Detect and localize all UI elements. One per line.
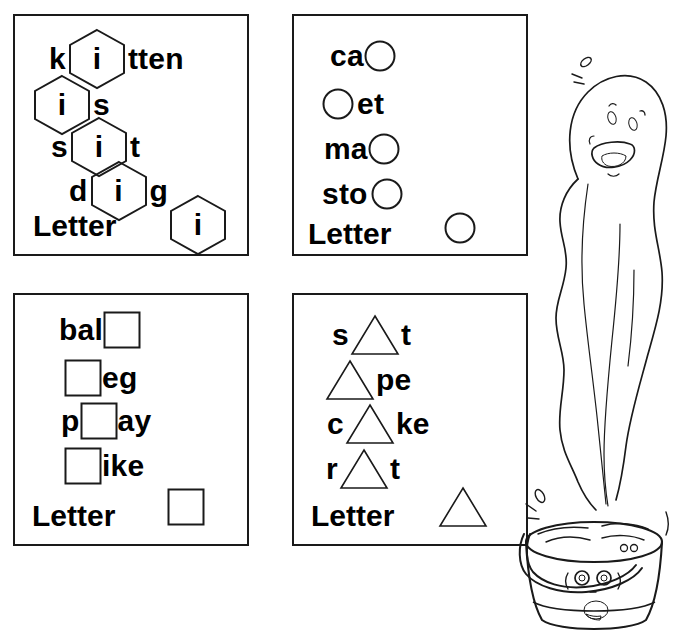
panel-circle-rows: ca et bbox=[294, 16, 526, 254]
triangle-icon[interactable] bbox=[324, 358, 376, 402]
bucket-icon bbox=[520, 522, 662, 629]
square-answer-letter bbox=[80, 402, 118, 440]
word-suffix: t bbox=[390, 454, 400, 484]
square-answer-letter bbox=[64, 359, 102, 397]
square-icon[interactable] bbox=[64, 359, 102, 397]
letter-label: Letter bbox=[311, 501, 394, 531]
ghost-mouth-icon bbox=[592, 142, 635, 168]
word-prefix: s bbox=[332, 320, 349, 350]
word-suffix: t bbox=[401, 320, 411, 350]
word-suffix: t bbox=[130, 132, 140, 162]
triangle-answer-letter bbox=[344, 402, 396, 446]
circle-answer-letter bbox=[322, 88, 354, 120]
word-prefix: s bbox=[51, 132, 68, 162]
letter-label: Letter bbox=[33, 211, 116, 241]
square-answer-letter bbox=[64, 447, 102, 485]
triangle-icon[interactable] bbox=[344, 402, 396, 446]
letter-label: Letter bbox=[32, 501, 115, 531]
triangle-answer-letter bbox=[338, 447, 390, 491]
word-prefix: c bbox=[327, 409, 344, 439]
triangle-answer-letter bbox=[437, 485, 489, 529]
triangle-icon[interactable] bbox=[349, 313, 401, 357]
triangle-answer-icon[interactable] bbox=[437, 485, 489, 529]
square-icon[interactable] bbox=[80, 402, 118, 440]
panel-hexagon: k i tten i s bbox=[13, 14, 249, 256]
circle-icon[interactable] bbox=[364, 40, 396, 72]
word-suffix: g bbox=[150, 176, 169, 206]
panel-square-rows: bal eg bbox=[15, 295, 247, 544]
bucket-left-eye-icon bbox=[575, 571, 589, 585]
word-row: eg bbox=[64, 359, 137, 397]
word-suffix: pe bbox=[376, 365, 411, 395]
word-prefix: k bbox=[49, 44, 66, 74]
word-row: pe bbox=[324, 358, 411, 402]
triangle-icon[interactable] bbox=[338, 447, 390, 491]
ghost-left-eye-icon bbox=[606, 111, 617, 126]
square-answer-letter bbox=[167, 488, 205, 526]
circle-answer-letter bbox=[368, 133, 400, 165]
square-answer-icon[interactable] bbox=[167, 488, 205, 526]
ghost-motion-tick-icon bbox=[579, 56, 593, 69]
word-suffix: ay bbox=[118, 406, 152, 436]
triangle-answer-letter bbox=[324, 358, 376, 402]
word-row: r t bbox=[326, 447, 400, 491]
word-row: s t bbox=[332, 313, 411, 357]
ghost-right-eye-icon bbox=[627, 117, 638, 132]
panel-triangle: s t pe bbox=[292, 293, 528, 546]
circle-icon[interactable] bbox=[371, 178, 403, 210]
word-suffix: et bbox=[357, 89, 384, 119]
hexagon-answer-icon[interactable]: i bbox=[167, 194, 229, 256]
word-row: ma bbox=[324, 133, 400, 165]
word-row: sto bbox=[322, 178, 403, 210]
steam-ghost-icon bbox=[556, 56, 666, 510]
word-prefix: r bbox=[326, 454, 338, 484]
word-row: ca bbox=[330, 40, 396, 72]
word-suffix: ike bbox=[102, 451, 144, 481]
word-row: et bbox=[322, 88, 384, 120]
panel-circle: ca et bbox=[292, 14, 528, 256]
circle-icon[interactable] bbox=[322, 88, 354, 120]
worksheet-sheet: k i tten i s bbox=[0, 0, 675, 635]
square-answer-letter bbox=[103, 311, 141, 349]
word-prefix: bal bbox=[59, 315, 103, 345]
panel-hexagon-rows: k i tten i s bbox=[15, 16, 247, 254]
circle-answer-letter bbox=[371, 178, 403, 210]
bucket-handle bbox=[520, 534, 642, 592]
square-icon[interactable] bbox=[103, 311, 141, 349]
word-suffix: tten bbox=[128, 44, 184, 74]
circle-answer-letter bbox=[444, 212, 476, 244]
word-prefix: sto bbox=[322, 179, 368, 209]
word-row: ike bbox=[64, 447, 144, 485]
square-icon[interactable] bbox=[64, 447, 102, 485]
word-prefix: ca bbox=[330, 41, 364, 71]
word-row: bal bbox=[59, 311, 141, 349]
panel-triangle-rows: s t pe bbox=[294, 295, 526, 544]
triangle-answer-letter bbox=[349, 313, 401, 357]
word-prefix: p bbox=[61, 406, 80, 436]
word-suffix: eg bbox=[102, 363, 137, 393]
letter-label: Letter bbox=[308, 219, 391, 249]
word-prefix: ma bbox=[324, 134, 368, 164]
word-row: p ay bbox=[61, 402, 151, 440]
circle-answer-letter bbox=[364, 40, 396, 72]
word-suffix: ke bbox=[396, 409, 430, 439]
circle-icon[interactable] bbox=[368, 133, 400, 165]
hexagon-answer-letter: i bbox=[167, 194, 229, 256]
word-row: c ke bbox=[327, 402, 430, 446]
word-prefix: d bbox=[69, 176, 88, 206]
circle-answer-icon[interactable] bbox=[444, 212, 476, 244]
panel-square: bal eg bbox=[13, 293, 249, 546]
steam-ghost-and-bucket-illustration bbox=[516, 34, 675, 635]
